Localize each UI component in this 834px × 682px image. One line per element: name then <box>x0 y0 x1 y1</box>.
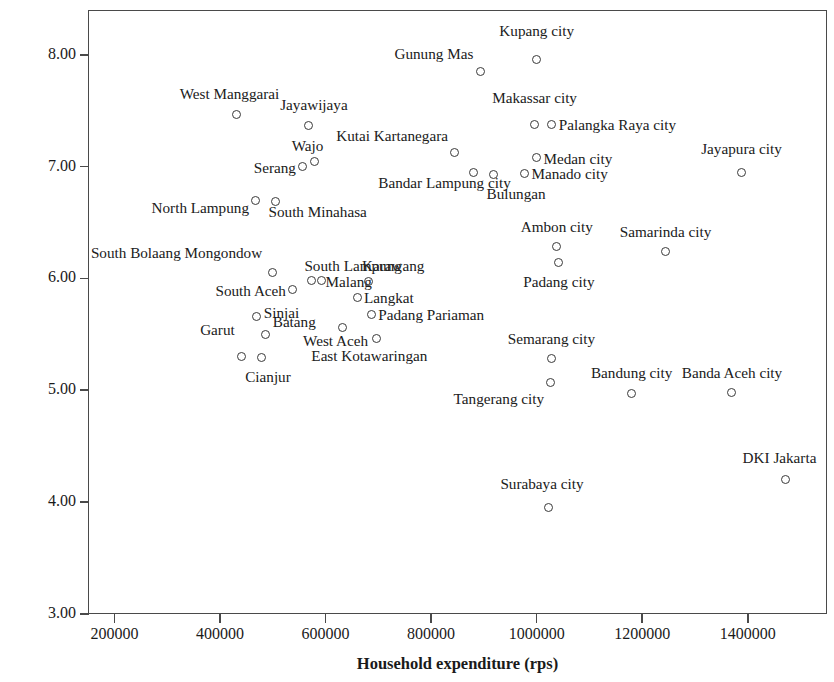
data-point-label: Karawang <box>362 258 424 273</box>
data-point-marker[interactable] <box>661 247 670 256</box>
y-tick <box>80 166 89 168</box>
data-point-marker[interactable] <box>546 378 555 387</box>
data-point-marker[interactable] <box>530 120 539 129</box>
data-point-marker[interactable] <box>317 276 326 285</box>
data-point-marker[interactable] <box>304 121 313 130</box>
x-tick-label: 200000 <box>54 625 174 643</box>
data-point-label: Surabaya city <box>500 476 583 491</box>
y-tick <box>80 278 89 280</box>
data-point-label: South Bolaang Mongondow <box>91 245 262 260</box>
data-point-label: Gunung Mas <box>394 46 473 61</box>
data-point-marker[interactable] <box>307 276 316 285</box>
y-tick-label: 7.00 <box>6 157 76 175</box>
x-tick-label: 400000 <box>160 625 280 643</box>
data-point-label: Malang <box>326 274 372 289</box>
data-point-label: West Manggarai <box>180 86 280 101</box>
x-tick <box>219 614 221 623</box>
data-point-label: South Aceh <box>215 283 285 298</box>
data-point-marker[interactable] <box>450 148 459 157</box>
data-point-label: Bulungan <box>487 186 546 201</box>
x-axis-title: Household expenditure (rps) <box>88 652 827 676</box>
data-point-label: Manado city <box>531 166 607 181</box>
data-point-label: Medan city <box>544 151 613 166</box>
x-tick-label: 1400000 <box>688 625 808 643</box>
data-point-label: East Kotawaringan <box>311 348 427 363</box>
data-point-label: Makassar city <box>492 90 577 105</box>
x-tick-label: 1000000 <box>477 625 597 643</box>
y-tick-label: 6.00 <box>6 268 76 286</box>
data-point-marker[interactable] <box>310 157 319 166</box>
data-point-label: Wajo <box>292 138 324 153</box>
x-tick <box>536 614 538 623</box>
data-point-marker[interactable] <box>367 310 376 319</box>
data-point-label: North Lampung <box>152 200 249 215</box>
data-point-marker[interactable] <box>476 67 485 76</box>
data-point-label: Jayawijaya <box>280 97 347 112</box>
y-tick <box>80 389 89 391</box>
data-point-label: Garut <box>200 322 235 337</box>
data-point-label: Tangerang city <box>454 391 544 406</box>
data-point-marker[interactable] <box>353 293 362 302</box>
data-point-label: Cianjur <box>245 369 291 384</box>
data-point-label: Padang city <box>523 274 594 289</box>
x-tick <box>641 614 643 623</box>
x-tick <box>430 614 432 623</box>
data-point-label: Jayapura city <box>701 141 782 156</box>
x-tick <box>325 614 327 623</box>
data-point-marker[interactable] <box>251 196 260 205</box>
data-point-label: Padang Pariaman <box>378 307 484 322</box>
scatter-chart: Clientelism perception index 3.004.005.0… <box>0 0 834 682</box>
data-point-label: Batang <box>273 314 316 329</box>
data-point-marker[interactable] <box>232 110 241 119</box>
data-point-label: Kutai Kartanegara <box>336 128 448 143</box>
x-tick-label: 800000 <box>371 625 491 643</box>
data-point-marker[interactable] <box>338 323 347 332</box>
x-tick-label: 1200000 <box>582 625 702 643</box>
x-tick <box>114 614 116 623</box>
data-point-label: Semarang city <box>508 331 595 346</box>
y-tick-label: 5.00 <box>6 380 76 398</box>
data-point-label: Banda Aceh city <box>682 365 782 380</box>
x-tick-label: 600000 <box>266 625 386 643</box>
y-tick-label: 8.00 <box>6 45 76 63</box>
data-point-label: South Minahasa <box>269 204 367 219</box>
y-tick <box>80 54 89 56</box>
data-point-label: Bandung city <box>591 365 672 380</box>
data-point-marker[interactable] <box>489 170 498 179</box>
data-point-label: Langkat <box>364 290 414 305</box>
data-point-label: Samarinda city <box>620 224 712 239</box>
data-point-label: Ambon city <box>521 219 593 234</box>
x-tick <box>747 614 749 623</box>
data-point-marker[interactable] <box>257 353 266 362</box>
data-point-marker[interactable] <box>520 169 529 178</box>
data-point-marker[interactable] <box>737 168 746 177</box>
y-tick <box>80 613 89 615</box>
data-point-marker[interactable] <box>237 352 246 361</box>
data-point-marker[interactable] <box>372 334 381 343</box>
data-point-label: Palangka Raya city <box>559 117 676 132</box>
data-point-label: Kupang city <box>499 23 574 38</box>
y-tick <box>80 501 89 503</box>
data-point-marker[interactable] <box>532 55 541 64</box>
data-point-marker[interactable] <box>552 242 561 251</box>
y-tick-label: 3.00 <box>6 604 76 622</box>
data-point-label: Serang <box>254 160 296 175</box>
y-tick-label: 4.00 <box>6 492 76 510</box>
data-point-label: DKI Jakarta <box>743 450 817 465</box>
